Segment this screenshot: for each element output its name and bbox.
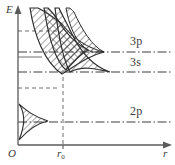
level-label-3s: 3s	[130, 56, 141, 68]
level-label-3p: 3p	[130, 35, 142, 47]
x-axis	[18, 142, 172, 149]
diagram-canvas	[0, 0, 175, 165]
x-axis-label: r	[163, 148, 167, 159]
y-axis-label: E	[6, 4, 13, 15]
level-label-2p: 2p	[130, 105, 142, 117]
y-axis	[15, 5, 22, 145]
x-tick-label-r0-subscript: 0	[61, 153, 65, 161]
band-2p-region	[19, 104, 48, 140]
x-tick-label-r0: r0	[57, 148, 65, 161]
origin-label: O	[8, 148, 16, 159]
energy-band-diagram: E r O r0 3p 3s 2p	[0, 0, 175, 165]
